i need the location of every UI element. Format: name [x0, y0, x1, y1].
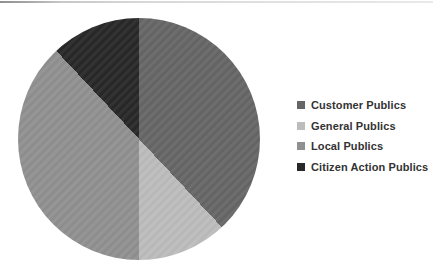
top-border-rule	[0, 1, 433, 3]
legend-item-label: Local Publics	[311, 140, 383, 152]
legend-swatch-icon	[297, 142, 305, 150]
legend-item-label: Customer Publics	[311, 99, 406, 111]
legend-item: Customer Publics	[297, 95, 428, 116]
legend-item: Local Publics	[297, 136, 428, 157]
legend-swatch-icon	[297, 122, 305, 130]
legend-item-label: Citizen Action Publics	[311, 161, 428, 173]
legend-item: General Publics	[297, 116, 428, 137]
legend-swatch-icon	[297, 163, 305, 171]
legend-item: Citizen Action Publics	[297, 157, 428, 178]
pie-chart-figure: Customer Publics General Publics Local P…	[0, 0, 433, 270]
pie-chart	[18, 18, 260, 260]
chart-legend: Customer Publics General Publics Local P…	[297, 95, 428, 177]
legend-item-label: General Publics	[311, 120, 396, 132]
legend-swatch-icon	[297, 101, 305, 109]
